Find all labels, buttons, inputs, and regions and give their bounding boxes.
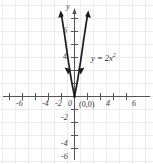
- graph-figure: y -6 -4 -2 0 4 6 6 4 -2 -4 -6 (0,0) y = …: [0, 0, 153, 164]
- x-tick-label-4: 4: [106, 100, 110, 108]
- equation-label: y = 2x2: [91, 52, 116, 62]
- y-tick-label-6: 6: [63, 27, 67, 35]
- equation-text: y = 2x: [91, 53, 113, 63]
- x-tick-label-neg6: -6: [16, 100, 23, 108]
- y-tick-label-neg6: -6: [61, 153, 68, 161]
- y-axis-label: y: [66, 3, 70, 11]
- curve-end-arrow-left: [58, 11, 64, 19]
- x-tick-label-zero: 0: [68, 100, 72, 108]
- vertex-label: (0,0): [79, 101, 94, 109]
- y-axis-arrow: [72, 8, 76, 14]
- curve-end-arrow-right: [85, 11, 91, 19]
- vertex-point: [73, 95, 76, 98]
- y-tick-label-neg4: -4: [61, 140, 68, 148]
- y-tick-label-neg2: -2: [61, 114, 68, 122]
- y-tick-label-4: 4: [63, 53, 67, 61]
- x-tick-label-neg4: -4: [42, 100, 49, 108]
- equation-exponent: 2: [113, 52, 116, 58]
- x-tick-label-6: 6: [132, 100, 136, 108]
- plot-area: [0, 0, 153, 164]
- x-tick-label-neg2: -2: [55, 100, 62, 108]
